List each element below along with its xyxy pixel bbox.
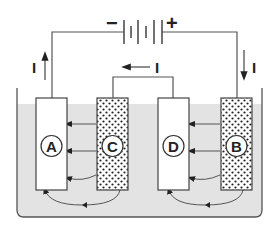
electrolysis-diagram: − + I I I A C D B [0,0,278,229]
current-label-left: I [32,59,36,76]
current-label-right: I [252,59,256,76]
battery [124,20,162,44]
current-label-middle: I [155,59,159,76]
electrode-label-a: A [41,136,62,157]
battery-positive-label: + [166,12,178,34]
electrode-label-c: C [102,136,123,157]
svg-text:C: C [107,138,118,155]
electrode-label-d: D [163,136,184,157]
svg-text:A: A [46,138,57,155]
electrode-label-b: B [226,136,247,157]
battery-negative-label: − [106,12,118,34]
svg-text:D: D [168,138,179,155]
svg-text:B: B [231,138,242,155]
wire-middle [113,77,173,98]
